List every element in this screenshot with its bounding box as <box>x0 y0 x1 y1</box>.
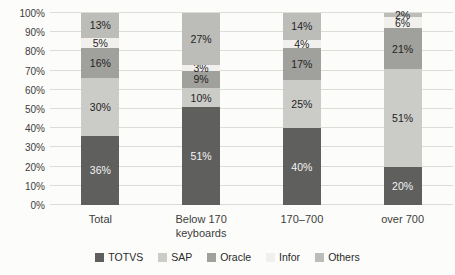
legend-swatch-icon <box>158 253 167 262</box>
bar-segment: 36% <box>81 136 119 205</box>
y-tick-label: 50% <box>25 104 45 115</box>
data-label: 51% <box>392 112 413 123</box>
legend-label: Others <box>328 251 360 263</box>
x-axis-label: 170–700 <box>252 212 353 241</box>
data-label: 10% <box>191 92 212 103</box>
x-axis-label: Below 170 keyboards <box>151 212 252 241</box>
data-label: 30% <box>90 102 111 113</box>
y-tick-label: 80% <box>25 46 45 57</box>
category-column: 20%51%21%6%2% <box>352 13 453 205</box>
y-tick-label: 10% <box>25 180 45 191</box>
y-tick-label: 20% <box>25 161 45 172</box>
category-column: 51%10%9%3%27% <box>151 13 252 205</box>
stacked-bar: 51%10%9%3%27% <box>182 13 220 205</box>
data-label: 13% <box>90 20 111 31</box>
data-label: 25% <box>291 99 312 110</box>
data-label: 4% <box>294 38 309 49</box>
data-label: 21% <box>392 43 413 54</box>
legend-label: Oracle <box>220 251 251 263</box>
bar-segment: 40% <box>283 128 321 205</box>
y-tick-label: 90% <box>25 27 45 38</box>
bar-segment: 2% <box>384 13 422 17</box>
bar-segment: 16% <box>81 48 119 79</box>
legend-swatch-icon <box>315 253 324 262</box>
legend-item: Infor <box>266 251 300 263</box>
bar-segment: 3% <box>182 65 220 71</box>
bar-segment: 20% <box>384 167 422 205</box>
bar-segment: 30% <box>81 78 119 136</box>
data-label: 51% <box>191 151 212 162</box>
legend-label: TOTVS <box>108 251 143 263</box>
data-label: 27% <box>191 34 212 45</box>
y-tick-label: 30% <box>25 142 45 153</box>
bar-segment: 10% <box>182 88 220 107</box>
stacked-bar: 36%30%16%5%13% <box>81 13 119 205</box>
data-label: 16% <box>90 58 111 69</box>
bar-segment: 51% <box>384 69 422 167</box>
y-tick-label: 60% <box>25 84 45 95</box>
bar-segment: 14% <box>283 13 321 40</box>
stacked-bar: 20%51%21%6%2% <box>384 13 422 205</box>
stacked-bar: 40%25%17%4%14% <box>283 13 321 205</box>
category-column: 40%25%17%4%14% <box>252 13 353 205</box>
bar-segment: 21% <box>384 28 422 68</box>
plot-area: 36%30%16%5%13%51%10%9%3%27%40%25%17%4%14… <box>50 13 453 205</box>
legend-label: Infor <box>279 251 300 263</box>
legend: TOTVSSAPOracleInforOthers <box>0 251 455 263</box>
bar-segment: 51% <box>182 107 220 205</box>
category-column: 36%30%16%5%13% <box>50 13 151 205</box>
data-label: 17% <box>291 59 312 70</box>
bar-segment: 4% <box>283 40 321 48</box>
legend-label: SAP <box>171 251 192 263</box>
y-tick-label: 70% <box>25 65 45 76</box>
legend-item: TOTVS <box>95 251 143 263</box>
data-label: 14% <box>291 21 312 32</box>
legend-item: SAP <box>158 251 192 263</box>
y-tick-label: 100% <box>19 8 45 19</box>
x-axis-label: Total <box>50 212 151 241</box>
bar-segment: 5% <box>81 38 119 48</box>
bar-segment: 25% <box>283 80 321 128</box>
legend-item: Others <box>315 251 360 263</box>
x-axis-label: over 700 <box>352 212 453 241</box>
chart-canvas: 0%10%20%30%40%50%60%70%80%90%100% 36%30%… <box>0 0 455 275</box>
y-tick-label: 0% <box>31 200 45 211</box>
legend-swatch-icon <box>207 253 216 262</box>
data-label: 40% <box>291 161 312 172</box>
bar-segment: 27% <box>182 13 220 65</box>
y-axis: 0%10%20%30%40%50%60%70%80%90%100% <box>0 13 45 205</box>
data-label: 20% <box>392 181 413 192</box>
legend-swatch-icon <box>266 253 275 262</box>
y-tick-label: 40% <box>25 123 45 134</box>
x-axis: TotalBelow 170 keyboards170–700over 700 <box>50 212 453 241</box>
bar-segment: 13% <box>81 13 119 38</box>
bar-segment: 17% <box>283 48 321 81</box>
data-label: 36% <box>90 165 111 176</box>
data-label: 2% <box>395 10 410 21</box>
legend-item: Oracle <box>207 251 251 263</box>
legend-swatch-icon <box>95 253 104 262</box>
data-label: 5% <box>93 38 108 49</box>
data-label: 9% <box>194 74 209 85</box>
